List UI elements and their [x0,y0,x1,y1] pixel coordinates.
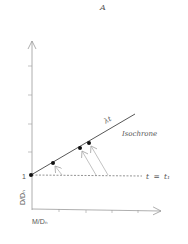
y-tick-label: 1 [22,173,26,180]
isochron-diagram: A 1 D/Dₙ M/Dₙ t = t₁ λt Isochrone [0,0,188,244]
reference-line-t1 [32,175,142,176]
reference-line-label: t = t₁ [146,172,170,181]
sample-point [78,146,82,150]
x-axis-label: M/Dₙ [32,218,48,225]
evolution-arrow [82,151,96,175]
evolution-arrow [55,166,62,175]
slope-label: λt [102,115,113,126]
isochrone-line [31,114,135,175]
sample-point [87,141,91,145]
diagram-title: A [99,3,106,12]
label-val: t₁ [164,172,170,181]
label-var: t [146,172,150,181]
label-eq: = [153,172,159,181]
y-axis-label: D/Dₙ [19,190,26,205]
sample-point [29,173,33,177]
isochrone-label: Isochrone [121,130,157,138]
sample-point [51,161,55,165]
x-axis [32,209,161,211]
